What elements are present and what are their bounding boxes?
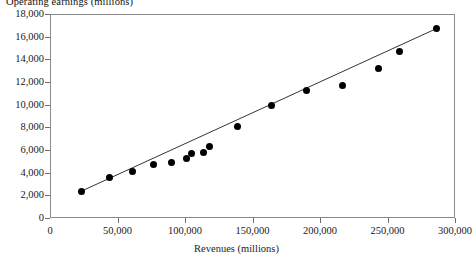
scatter-point xyxy=(339,82,346,89)
scatter-point xyxy=(433,25,440,32)
scatter-point xyxy=(106,174,113,181)
scatter-point xyxy=(206,143,213,150)
scatter-point xyxy=(396,48,403,55)
scatter-point xyxy=(200,149,207,156)
scatter-point xyxy=(188,150,195,157)
scatter-point xyxy=(168,159,175,166)
x-axis-title: Revenues (millions) xyxy=(0,243,473,254)
chart-root: Operating earnings (millions) 02,0004,00… xyxy=(0,0,473,262)
scatter-point xyxy=(78,188,85,195)
scatter-point xyxy=(303,87,310,94)
scatter-point-layer xyxy=(0,0,473,262)
scatter-point xyxy=(268,102,275,109)
scatter-point xyxy=(375,65,382,72)
scatter-point xyxy=(129,168,136,175)
scatter-point xyxy=(234,123,241,130)
scatter-point xyxy=(150,161,157,168)
